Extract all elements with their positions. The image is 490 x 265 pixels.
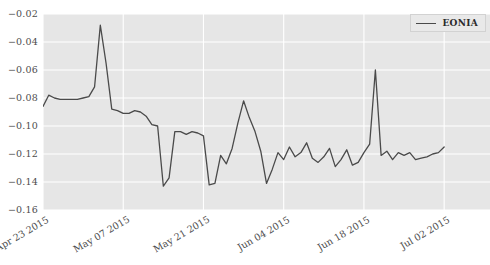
legend-line-icon	[416, 23, 436, 24]
x-tick-label: Jun 04 2015	[232, 214, 291, 255]
legend: EONIA	[410, 14, 486, 32]
x-tick-label: May 07 2015	[72, 214, 131, 255]
x-axis-tick-labels: Apr 23 2015May 07 2015May 21 2015Jun 04 …	[0, 0, 490, 265]
x-tick-label: May 21 2015	[152, 214, 211, 255]
chart-figure: −0.02−0.04−0.06−0.08−0.10−0.12−0.14−0.16…	[0, 0, 490, 265]
x-tick-label: Jul 02 2015	[392, 214, 451, 255]
x-tick-label: Apr 23 2015	[0, 214, 50, 255]
legend-label: EONIA	[442, 18, 478, 28]
x-tick-label: Jun 18 2015	[312, 214, 371, 255]
